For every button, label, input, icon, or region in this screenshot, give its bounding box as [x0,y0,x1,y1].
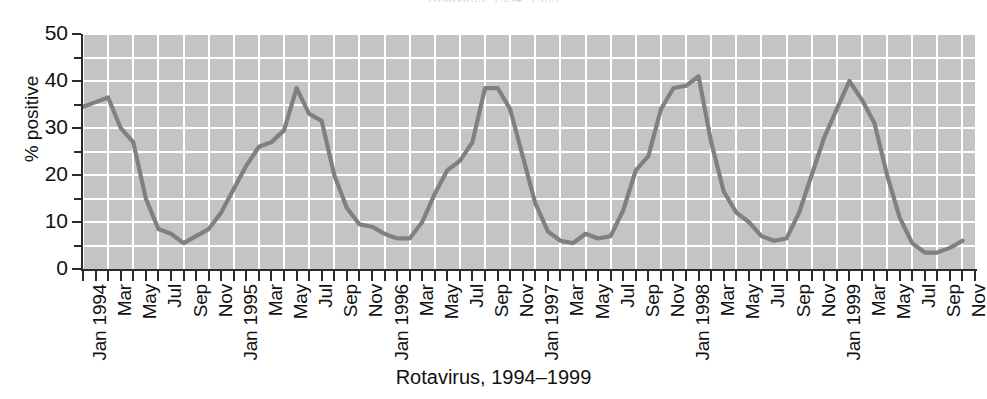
x-axis-tick-label: Jul [618,284,637,308]
x-axis-tick-label: Jul [467,284,486,308]
y-axis-tick-mark [72,127,81,129]
y-axis-tick-mark [72,268,81,270]
x-axis-tick-label: Nov [517,284,536,317]
y-axis-tick-mark [72,221,81,223]
x-axis-tick-label: Jul [919,284,938,308]
x-axis-tick-label: Jan 1997 [542,284,561,361]
x-axis-tick-label: May [140,284,159,319]
y-axis-minor-tick-mark [74,151,81,153]
x-axis-tick-label: Sep [492,284,511,317]
x-axis-tick-labels: Jan 1994MarMayJulSepNovJan 1995MarMayJul… [0,0,987,399]
x-axis-tick-label: Sep [341,284,360,317]
rotavirus-seasonality-figure: Rotavirus, 1994–1999 % positive 01020304… [0,0,987,399]
x-axis-tick-label: Nov [969,284,987,317]
figure-caption: Rotavirus, 1994–1999 [0,366,987,389]
y-axis-tick-mark [72,174,81,176]
y-axis-minor-tick-mark [74,198,81,200]
x-axis-tick-label: May [894,284,913,319]
x-axis-tick-label: Jan 1999 [844,284,863,361]
x-axis-tick-label: May [442,284,461,319]
x-axis-tick-label: Jul [316,284,335,308]
y-axis-minor-tick-mark [74,104,81,106]
y-axis-tick-mark [72,80,81,82]
x-axis-tick-label: Sep [191,284,210,317]
y-axis-tick-mark [72,33,81,35]
x-axis-tick-label: Mar [417,284,436,316]
x-axis-tick-label: Jan 1998 [693,284,712,361]
x-axis-tick-label: Jul [165,284,184,308]
x-axis-tick-label: Nov [366,284,385,317]
x-axis-tick-label: Sep [944,284,963,317]
x-axis-tick-label: Mar [869,284,888,316]
x-axis-tick-label: May [743,284,762,319]
x-axis-tick-label: May [291,284,310,319]
x-axis-tick-label: Jan 1994 [90,284,109,361]
x-axis-tick-label: Mar [718,284,737,316]
x-axis-tick-label: Nov [668,284,687,317]
x-axis-tick-label: Mar [567,284,586,316]
x-axis-tick-label: Sep [643,284,662,317]
y-axis-minor-tick-mark [74,245,81,247]
y-axis-minor-tick-mark [74,57,81,59]
x-axis-tick-label: Nov [819,284,838,317]
x-axis-tick-label: Nov [216,284,235,317]
x-axis-tick-label: Jul [768,284,787,308]
x-axis-tick-label: May [593,284,612,319]
x-axis-tick-label: Sep [794,284,813,317]
x-axis-tick-label: Jan 1996 [392,284,411,361]
x-axis-tick-label: Mar [115,284,134,316]
x-axis-tick-label: Mar [266,284,285,316]
x-axis-tick-label: Jan 1995 [241,284,260,361]
